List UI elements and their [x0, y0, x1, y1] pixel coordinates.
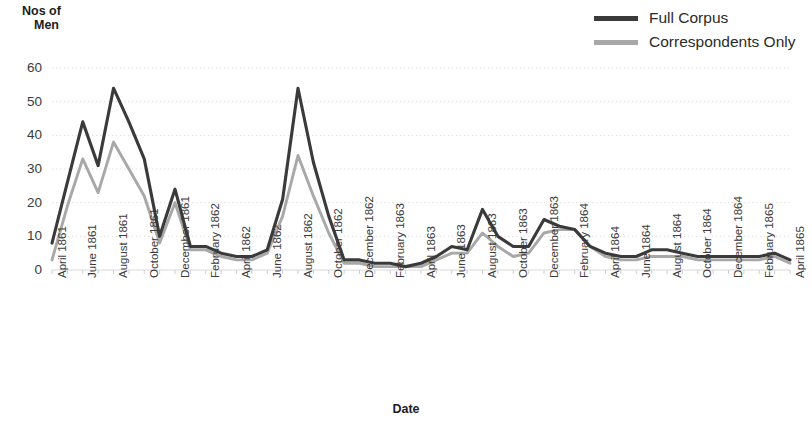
- x-axis-tick-label: December 1861: [180, 196, 192, 278]
- x-axis-tick-label: April 1861: [57, 226, 69, 278]
- y-axis-tick-label: 30: [8, 162, 42, 176]
- x-axis-tick-label: October 1862: [333, 208, 345, 278]
- x-axis-tick-label: August 1864: [672, 213, 684, 278]
- x-axis-tick-label: February 1862: [210, 203, 222, 278]
- x-axis-tick-label: June 1864: [641, 224, 653, 278]
- x-axis-tick-label: April 1862: [241, 226, 253, 278]
- x-axis-tick-label: October 1864: [702, 208, 714, 278]
- x-axis-tick-label: April 1864: [610, 226, 622, 278]
- x-axis-tick-label: June 1863: [456, 224, 468, 278]
- x-axis-tick-label: April 1865: [795, 226, 807, 278]
- y-axis-tick-label: 40: [8, 128, 42, 142]
- x-axis-tick-label: December 1862: [364, 196, 376, 278]
- x-axis-tick-label: June 1861: [87, 224, 99, 278]
- x-axis-tick-label: February 1863: [395, 203, 407, 278]
- x-axis-tick-label: October 1863: [518, 208, 530, 278]
- x-axis-tick-label: December 1863: [549, 196, 561, 278]
- y-axis-tick-label: 50: [8, 95, 42, 109]
- y-axis-tick-label: 10: [8, 229, 42, 243]
- line-chart: Nos of Men Full Corpus Correspondents On…: [0, 0, 812, 429]
- x-axis-title: Date: [0, 402, 812, 416]
- x-axis-tick-label: June 1862: [272, 224, 284, 278]
- x-axis-tick-label: February 1865: [764, 203, 776, 278]
- y-axis-tick-label: 60: [8, 61, 42, 75]
- y-axis-tick-label: 20: [8, 196, 42, 210]
- x-axis-tick-label: February 1864: [579, 203, 591, 278]
- x-axis-tick-label: October 1861: [149, 208, 161, 278]
- x-axis-tick-label: April 1863: [426, 226, 438, 278]
- y-axis-tick-label: 0: [8, 263, 42, 277]
- x-axis-tick-label: August 1863: [487, 213, 499, 278]
- x-axis-tick-label: August 1862: [303, 213, 315, 278]
- x-axis-tick-label: December 1864: [733, 196, 745, 278]
- x-axis-tick-label: August 1861: [118, 213, 130, 278]
